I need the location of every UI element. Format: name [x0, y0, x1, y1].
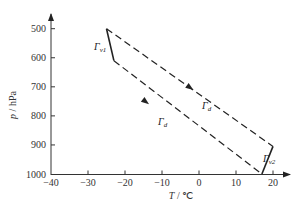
y-tick-label: 900 — [31, 139, 46, 150]
y-axis-title: p / hPa — [7, 91, 18, 120]
direction-arrow-icon — [185, 83, 195, 93]
x-tick-label: −10 — [154, 177, 170, 188]
x-axis-title: T / ℃ — [169, 190, 193, 201]
x-tick-label: 20 — [268, 177, 278, 188]
y-tick-label: 500 — [31, 23, 46, 34]
x-tick-label: 0 — [197, 177, 202, 188]
y-tick-label: 800 — [31, 110, 46, 121]
axes — [51, 14, 290, 175]
x-tick-label: 10 — [231, 177, 241, 188]
x-tick-label: −30 — [80, 177, 96, 188]
annotations: Γv1ΓdΓdΓv2 — [93, 41, 276, 166]
y-tick-label: 600 — [31, 52, 46, 63]
annotation-label: Γd — [157, 116, 168, 129]
y-tick-label: 700 — [31, 81, 46, 92]
x-ticks: −40−30−20−1001020 — [43, 171, 278, 189]
direction-arrow-icon — [141, 97, 151, 107]
series-lines — [107, 29, 274, 174]
series-line — [114, 61, 262, 174]
x-tick-label: −40 — [43, 177, 59, 188]
x-tick-label: −20 — [117, 177, 133, 188]
series-line — [107, 29, 114, 61]
lapse-rate-chart: 5006007008009001000 −40−30−20−1001020 Γv… — [0, 0, 303, 216]
annotation-label: Γv1 — [93, 41, 106, 54]
